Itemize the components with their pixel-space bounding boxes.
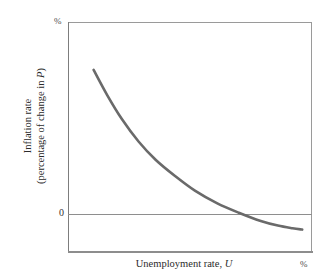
x-axis-line xyxy=(68,251,313,253)
y-axis-title-line1: Inflation rate xyxy=(21,68,34,184)
y-axis-title-line2-prefix: (percentage of change in xyxy=(35,78,46,184)
y-axis-title: Inflation rate (percentage of change in … xyxy=(0,0,68,252)
y-axis-line xyxy=(68,22,69,253)
phillips-curve-figure: % % 0 Inflation rate (percentage of chan… xyxy=(0,0,333,278)
y-axis-title-text: Inflation rate (percentage of change in … xyxy=(21,68,47,184)
plot-frame xyxy=(68,22,312,252)
x-axis-title: Unemployment rate, U xyxy=(68,258,300,269)
y-axis-title-line2-symbol: P xyxy=(35,71,46,77)
y-axis-title-line2-suffix: ) xyxy=(35,68,46,72)
y-axis-title-line2: (percentage of change in P) xyxy=(34,68,47,184)
x-axis-title-symbol: U xyxy=(225,258,233,269)
x-axis-title-prefix: Unemployment rate, xyxy=(136,258,225,269)
x-axis-percent-mark: % xyxy=(300,259,308,269)
zero-reference-line xyxy=(68,214,312,215)
